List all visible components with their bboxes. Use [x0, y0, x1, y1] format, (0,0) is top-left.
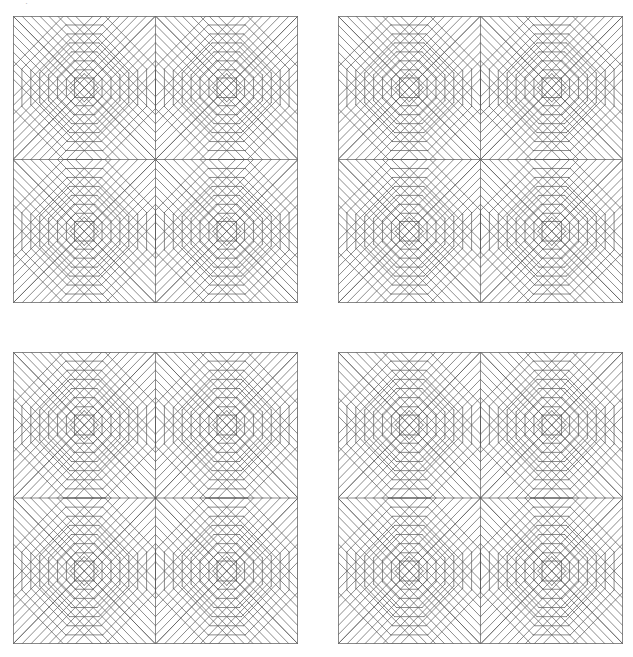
top-edge-artifact: · — [25, 0, 32, 7]
quilt-panel-graphic — [13, 352, 298, 644]
figure-root: · — [0, 0, 633, 657]
quilt-panel-graphic — [338, 16, 623, 303]
quilt-panel-graphic — [338, 352, 623, 644]
panel-bottom-right — [338, 352, 623, 644]
panel-bottom-left — [13, 352, 298, 644]
quilt-panel-graphic — [13, 16, 298, 303]
panel-top-left — [13, 16, 298, 303]
panel-top-right — [338, 16, 623, 303]
